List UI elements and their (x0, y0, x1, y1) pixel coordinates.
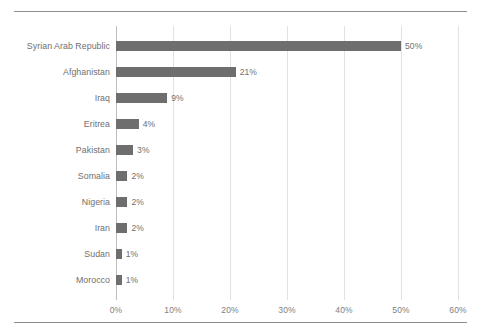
top-divider-rule (14, 11, 467, 12)
bar-value-label: 4% (143, 119, 156, 129)
category-label: Eritrea (84, 119, 110, 129)
bar-track: 2% (116, 215, 473, 241)
bar-row: Somalia2% (0, 163, 481, 189)
bottom-divider-rule (14, 322, 467, 323)
category-label-wrap: Eritrea (0, 111, 110, 137)
bar[interactable] (116, 145, 133, 155)
bar[interactable] (116, 197, 127, 207)
bar-row: Iran2% (0, 215, 481, 241)
category-label: Sudan (84, 249, 110, 259)
bar-row: Morocco1% (0, 267, 481, 293)
bar-track: 2% (116, 163, 473, 189)
bar-value-label: 2% (131, 197, 144, 207)
x-tick-label: 40% (335, 305, 352, 315)
x-tick-label: 10% (164, 305, 181, 315)
category-label-wrap: Nigeria (0, 189, 110, 215)
bar-row: Pakistan3% (0, 137, 481, 163)
bar[interactable] (116, 223, 127, 233)
bar-value-label: 1% (126, 275, 139, 285)
category-label: Iraq (95, 93, 110, 103)
category-label-wrap: Syrian Arab Republic (0, 33, 110, 59)
bar-value-label: 2% (131, 223, 144, 233)
bar-track: 2% (116, 189, 473, 215)
category-label-wrap: Pakistan (0, 137, 110, 163)
bar[interactable] (116, 249, 122, 259)
x-tick-label: 0% (110, 305, 123, 315)
category-label-wrap: Iraq (0, 85, 110, 111)
bar-value-label: 50% (405, 41, 422, 51)
bar-track: 1% (116, 241, 473, 267)
category-label: Afghanistan (63, 67, 110, 77)
bar[interactable] (116, 171, 127, 181)
bar-value-label: 1% (126, 249, 139, 259)
bar-value-label: 9% (171, 93, 184, 103)
bar-row: Sudan1% (0, 241, 481, 267)
bar[interactable] (116, 41, 401, 51)
bar-chart: 0%10%20%30%40%50%60% Syrian Arab Republi… (0, 20, 481, 312)
category-label-wrap: Iran (0, 215, 110, 241)
category-label-wrap: Afghanistan (0, 59, 110, 85)
category-label: Syrian Arab Republic (27, 41, 110, 51)
bar-track: 21% (116, 59, 473, 85)
bar[interactable] (116, 93, 167, 103)
x-tick-label: 30% (278, 305, 295, 315)
category-label-wrap: Somalia (0, 163, 110, 189)
x-tick-label: 60% (449, 305, 466, 315)
bar-track: 4% (116, 111, 473, 137)
category-label: Morocco (76, 275, 110, 285)
category-label-wrap: Morocco (0, 267, 110, 293)
bar-row: Eritrea4% (0, 111, 481, 137)
bar-value-label: 2% (131, 171, 144, 181)
category-label-wrap: Sudan (0, 241, 110, 267)
category-label: Nigeria (82, 197, 110, 207)
chart-page: 0%10%20%30%40%50%60% Syrian Arab Republi… (0, 0, 481, 332)
bar-row: Afghanistan21% (0, 59, 481, 85)
category-label: Somalia (78, 171, 110, 181)
bar[interactable] (116, 119, 139, 129)
bar-value-label: 21% (240, 67, 257, 77)
bar-track: 9% (116, 85, 473, 111)
category-label: Pakistan (76, 145, 110, 155)
bar[interactable] (116, 67, 236, 77)
bar-track: 1% (116, 267, 473, 293)
bar[interactable] (116, 275, 122, 285)
bar-row: Iraq9% (0, 85, 481, 111)
x-tick-label: 50% (392, 305, 409, 315)
bar-track: 3% (116, 137, 473, 163)
bar-row: Nigeria2% (0, 189, 481, 215)
bar-row: Syrian Arab Republic50% (0, 33, 481, 59)
bar-value-label: 3% (137, 145, 150, 155)
x-tick-label: 20% (221, 305, 238, 315)
category-label: Iran (95, 223, 110, 233)
bar-track: 50% (116, 33, 473, 59)
